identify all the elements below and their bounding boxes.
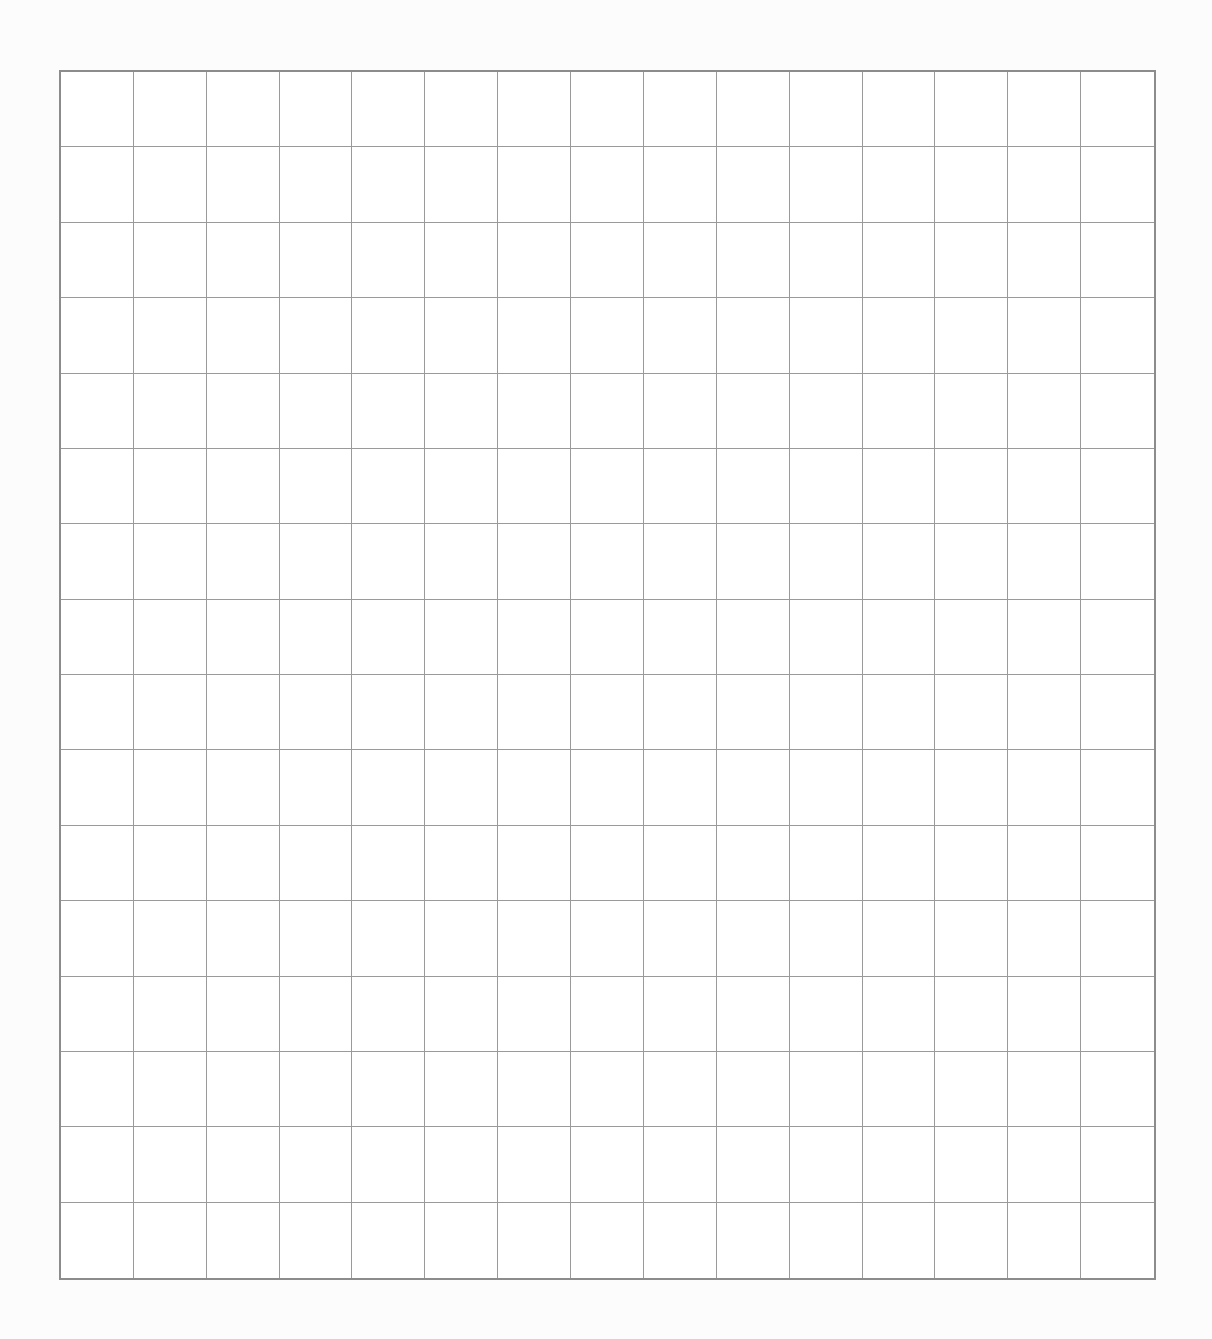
grid-cell — [134, 600, 207, 675]
grid-cell — [280, 750, 353, 825]
grid-cell — [498, 1052, 571, 1127]
grid-cell — [280, 977, 353, 1052]
grid-cell — [280, 826, 353, 901]
grid-cell — [1008, 374, 1081, 449]
grid-cell — [498, 524, 571, 599]
grid-cell — [571, 374, 644, 449]
grid-cell — [498, 449, 571, 524]
grid-cell — [61, 1203, 134, 1278]
blank-grid — [59, 70, 1156, 1280]
grid-cell — [280, 449, 353, 524]
grid-cell — [498, 675, 571, 750]
grid-cell — [61, 675, 134, 750]
grid-cell — [717, 72, 790, 147]
grid-cell — [935, 826, 1008, 901]
grid-cell — [425, 1127, 498, 1202]
grid-cell — [717, 374, 790, 449]
grid-cell — [935, 750, 1008, 825]
grid-cell — [717, 1127, 790, 1202]
grid-cell — [644, 826, 717, 901]
grid-cell — [61, 449, 134, 524]
grid-cell — [1081, 901, 1154, 976]
grid-cell — [207, 1052, 280, 1127]
grid-cell — [425, 223, 498, 298]
grid-cell — [1081, 147, 1154, 222]
grid-cell — [644, 72, 717, 147]
grid-cell — [1008, 600, 1081, 675]
grid-cell — [61, 72, 134, 147]
grid-cell — [1008, 449, 1081, 524]
grid-cell — [644, 1127, 717, 1202]
grid-cell — [1008, 72, 1081, 147]
grid-cell — [207, 1127, 280, 1202]
grid-cell — [1008, 147, 1081, 222]
grid-cell — [863, 1127, 936, 1202]
grid-cell — [571, 223, 644, 298]
grid-cell — [352, 901, 425, 976]
grid-cell — [207, 977, 280, 1052]
grid-cell — [717, 675, 790, 750]
grid-cell — [352, 1203, 425, 1278]
grid-cell — [498, 1203, 571, 1278]
grid-cell — [644, 901, 717, 976]
grid-cell — [425, 449, 498, 524]
grid-cell — [498, 1127, 571, 1202]
grid-cell — [498, 72, 571, 147]
grid-cell — [790, 449, 863, 524]
grid-cell — [352, 223, 425, 298]
grid-cell — [644, 374, 717, 449]
grid-cell — [1008, 1203, 1081, 1278]
grid-cell — [280, 524, 353, 599]
grid-cell — [1081, 449, 1154, 524]
grid-cell — [498, 600, 571, 675]
grid-cell — [717, 298, 790, 373]
grid-cell — [352, 72, 425, 147]
grid-cell — [935, 1052, 1008, 1127]
grid-cell — [425, 524, 498, 599]
grid-cell — [935, 901, 1008, 976]
grid-cell — [571, 298, 644, 373]
grid-cell — [134, 977, 207, 1052]
grid-cell — [425, 977, 498, 1052]
grid-cell — [571, 1203, 644, 1278]
grid-cell — [352, 449, 425, 524]
grid-cell — [935, 72, 1008, 147]
grid-cell — [280, 1127, 353, 1202]
grid-cell — [644, 1203, 717, 1278]
grid-cell — [644, 977, 717, 1052]
grid-cell — [935, 223, 1008, 298]
grid-cell — [352, 600, 425, 675]
grid-cell — [717, 223, 790, 298]
grid-cell — [863, 901, 936, 976]
grid-cell — [134, 901, 207, 976]
grid-cell — [935, 600, 1008, 675]
grid-cell — [717, 901, 790, 976]
grid-cell — [352, 524, 425, 599]
grid-cell — [1081, 1052, 1154, 1127]
grid-cell — [61, 524, 134, 599]
grid-cell — [61, 901, 134, 976]
grid-cell — [207, 1203, 280, 1278]
grid-cell — [207, 298, 280, 373]
grid-cell — [863, 1052, 936, 1127]
grid-cell — [935, 675, 1008, 750]
grid-cell — [207, 147, 280, 222]
grid-cell — [134, 147, 207, 222]
grid-cell — [717, 147, 790, 222]
grid-cell — [935, 147, 1008, 222]
grid-cell — [790, 1052, 863, 1127]
grid-cell — [61, 1127, 134, 1202]
grid-cell — [790, 826, 863, 901]
grid-cell — [352, 374, 425, 449]
grid-cell — [352, 750, 425, 825]
grid-cell — [935, 374, 1008, 449]
grid-cell — [863, 223, 936, 298]
grid-cell — [571, 901, 644, 976]
grid-cell — [717, 1203, 790, 1278]
grid-cell — [790, 223, 863, 298]
grid-cell — [498, 147, 571, 222]
grid-cell — [207, 524, 280, 599]
grid-cell — [571, 147, 644, 222]
grid-cell — [863, 524, 936, 599]
grid-cell — [207, 600, 280, 675]
